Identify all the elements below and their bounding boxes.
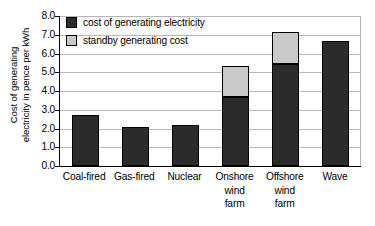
x-axis-tick-label: Offshorewindfarm bbox=[260, 170, 310, 211]
bar-segment-cost[interactable] bbox=[122, 127, 149, 166]
y-axis-title-line-1: Cost of generating bbox=[8, 28, 20, 143]
y-axis-tick-mark bbox=[55, 110, 59, 111]
y-axis-tick-label: 8.0 bbox=[33, 11, 55, 21]
bar-segment-standby[interactable] bbox=[272, 32, 299, 64]
y-axis-tick-label: 0.0 bbox=[33, 161, 55, 171]
x-axis-tick-label-line: farm bbox=[260, 197, 310, 211]
x-axis-tick-labels: Coal-firedGas-firedNuclearOnshorewindfar… bbox=[59, 170, 361, 226]
bar-segment-cost[interactable] bbox=[172, 125, 199, 166]
y-axis-tick-label: 7.0 bbox=[33, 30, 55, 40]
legend-swatch-icon-standby bbox=[66, 35, 77, 46]
x-axis-tick-label-line: Offshore bbox=[260, 170, 310, 184]
y-axis-tick-mark bbox=[55, 16, 59, 17]
legend-swatch-icon-main bbox=[66, 17, 77, 28]
bar-group[interactable] bbox=[322, 16, 349, 166]
y-axis-tick-mark bbox=[55, 72, 59, 73]
y-axis-tick-label: 5.0 bbox=[33, 67, 55, 77]
x-axis-tick-label-line: Wave bbox=[310, 170, 360, 184]
x-axis-tick-label-line: wind bbox=[260, 184, 310, 198]
legend-label-standby: standby generating cost bbox=[83, 35, 188, 46]
legend-item-cost-of-generating-electricity[interactable]: cost of generating electricity bbox=[66, 14, 256, 30]
y-axis-tick-label: 2.0 bbox=[33, 124, 55, 134]
legend: cost of generating electricity standby g… bbox=[66, 14, 256, 50]
y-axis-tick-mark bbox=[55, 147, 59, 148]
x-axis-tick-label: Coal-fired bbox=[59, 170, 109, 184]
y-axis-tick-label: 6.0 bbox=[33, 49, 55, 59]
y-axis-tick-mark bbox=[55, 166, 59, 167]
bar-group[interactable] bbox=[272, 16, 299, 166]
y-axis-tick-label: 3.0 bbox=[33, 105, 55, 115]
y-axis-tick-label: 4.0 bbox=[33, 86, 55, 96]
x-axis-tick-label-line: Onshore bbox=[210, 170, 260, 184]
x-axis-tick-label-line: farm bbox=[210, 197, 260, 211]
bar-chart: Cost of generating electricity in pence … bbox=[0, 0, 375, 226]
bar-segment-cost[interactable] bbox=[222, 97, 249, 166]
legend-label-main: cost of generating electricity bbox=[83, 17, 205, 28]
y-axis-tick-mark bbox=[55, 91, 59, 92]
bar-segment-cost[interactable] bbox=[322, 41, 349, 166]
x-axis-tick-label-line: Coal-fired bbox=[59, 170, 109, 184]
y-axis-tick-labels: 8.07.06.05.04.03.02.01.00.0 bbox=[31, 0, 55, 226]
bar-segment-standby[interactable] bbox=[222, 66, 249, 97]
x-axis-tick-label: Wave bbox=[310, 170, 360, 184]
x-axis-tick-label-line: Gas-fired bbox=[109, 170, 159, 184]
x-axis-tick-label: Gas-fired bbox=[109, 170, 159, 184]
x-axis-tick-label: Onshorewindfarm bbox=[210, 170, 260, 211]
bar-segment-cost[interactable] bbox=[272, 64, 299, 166]
bar-segment-cost[interactable] bbox=[72, 115, 99, 166]
y-axis-tick-mark bbox=[55, 35, 59, 36]
x-axis-tick-label: Nuclear bbox=[159, 170, 209, 184]
y-axis-tick-mark bbox=[55, 54, 59, 55]
x-axis-tick-label-line: wind bbox=[210, 184, 260, 198]
x-axis-tick-label-line: Nuclear bbox=[159, 170, 209, 184]
y-axis-tick-label: 1.0 bbox=[33, 142, 55, 152]
y-axis-tick-mark bbox=[55, 129, 59, 130]
legend-item-standby-generating-cost[interactable]: standby generating cost bbox=[66, 32, 256, 48]
